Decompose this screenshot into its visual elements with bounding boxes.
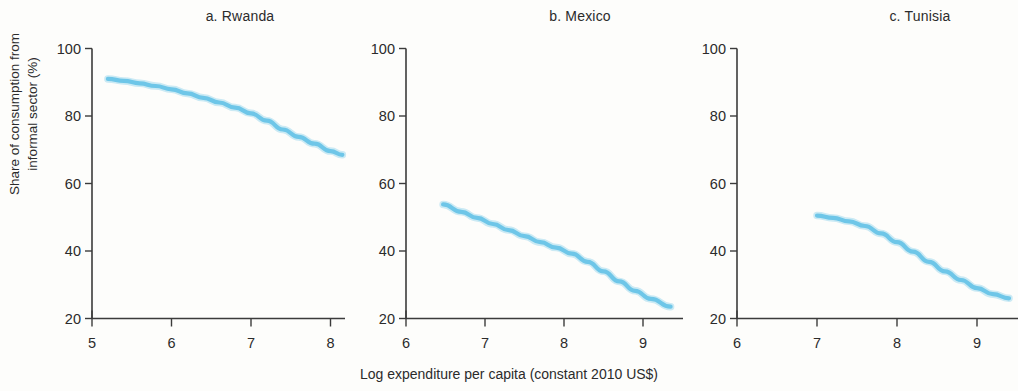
y-tick-label: 60 (710, 176, 726, 192)
series-line-halo (817, 216, 1009, 299)
y-tick-label: 40 (710, 243, 726, 259)
series-line-halo (108, 79, 343, 155)
y-tick-label: 20 (379, 311, 395, 327)
x-tick-label: 7 (481, 335, 489, 351)
y-tick-label: 60 (379, 176, 395, 192)
y-tick-label: 100 (57, 41, 81, 57)
x-tick-label: 6 (402, 335, 410, 351)
x-tick-label: 7 (247, 335, 255, 351)
y-tick-label: 20 (65, 311, 81, 327)
x-tick-label: 8 (560, 335, 568, 351)
panel-tunisia: 204060801006789 (702, 41, 1018, 351)
y-tick-label: 20 (710, 311, 726, 327)
y-tick-label: 80 (710, 108, 726, 124)
y-tick-label: 100 (371, 41, 395, 57)
x-tick-label: 5 (88, 335, 96, 351)
y-tick-label: 80 (65, 108, 81, 124)
x-tick-label: 8 (326, 335, 334, 351)
x-axis-label: Log expenditure per capita (constant 201… (0, 366, 1018, 382)
panel-rwanda: 204060801005678 (57, 41, 345, 351)
plot-canvas: 2040608010056782040608010067892040608010… (0, 0, 1018, 391)
y-tick-label: 60 (65, 176, 81, 192)
x-tick-label: 6 (167, 335, 175, 351)
y-tick-label: 100 (702, 41, 726, 57)
x-tick-label: 9 (973, 335, 981, 351)
figure-multi-panel-chart: Share of consumption from informal secto… (0, 0, 1018, 391)
x-tick-label: 8 (893, 335, 901, 351)
y-tick-label: 80 (379, 108, 395, 124)
y-tick-label: 40 (65, 243, 81, 259)
x-tick-label: 9 (639, 335, 647, 351)
x-tick-label: 6 (733, 335, 741, 351)
y-tick-label: 40 (379, 243, 395, 259)
series-line (443, 204, 670, 306)
panel-mexico: 204060801006789 (371, 41, 683, 351)
x-tick-label: 7 (813, 335, 821, 351)
